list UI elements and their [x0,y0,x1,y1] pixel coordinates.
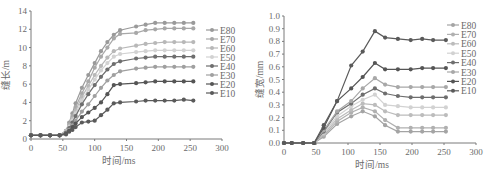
data-point-marker [373,114,377,118]
data-point-marker [182,21,186,25]
data-point-marker [99,55,103,59]
data-point-marker [361,75,365,79]
data-point-marker [349,108,353,112]
data-point-marker [409,126,413,130]
data-point-marker [172,55,176,59]
data-point-marker [93,83,97,87]
data-point-marker [163,21,167,25]
data-point-marker [38,133,42,137]
crack-width-chart: 0501001502002503000.00.10.20.30.40.50.60… [250,0,494,177]
series-line [31,57,193,136]
data-point-marker [93,94,97,98]
data-point-marker [163,40,167,44]
data-point-marker [80,86,84,90]
series-e70 [282,105,448,145]
data-point-marker [172,21,176,25]
data-point-marker [335,99,339,103]
data-point-marker [420,37,424,41]
x-tick-label: 250 [437,147,451,157]
x-tick-label: 100 [341,147,355,157]
data-point-marker [144,42,148,46]
data-point-marker [182,40,186,44]
data-point-marker [420,95,424,99]
y-tick-label: 0.2 [269,113,280,123]
data-point-marker [144,56,148,60]
data-point-marker [191,55,195,59]
series-e50 [29,48,196,137]
y-tick-label: 0.0 [269,138,281,148]
data-point-marker [163,65,167,69]
data-point-marker [322,123,326,127]
x-tick-label: 250 [183,143,197,153]
legend-marker-icon [451,51,455,55]
data-point-marker [163,99,167,103]
data-point-marker [444,95,448,99]
data-point-marker [112,36,116,40]
x-axis-title: 时间/ms [355,159,389,170]
legend-marker-icon [210,55,214,59]
y-tick-label: 8 [23,61,28,71]
legend-marker-icon [210,91,214,95]
data-point-marker [373,29,377,33]
data-point-marker [112,55,116,59]
data-point-marker [172,40,176,44]
x-tick-label: 50 [312,147,322,157]
legend-marker-icon [210,28,214,32]
data-point-marker [396,113,400,117]
data-point-marker [361,93,365,97]
data-point-marker [118,82,122,86]
data-point-marker [383,36,387,40]
data-point-marker [153,27,157,31]
legend: E80E70E60E50E40E30E20E10 [447,21,477,97]
data-point-marker [105,61,109,65]
data-point-marker [361,109,365,113]
data-point-marker [191,21,195,25]
data-point-marker [93,106,97,110]
x-axis-title: 时间/ms [102,155,136,166]
legend-marker-icon [210,73,214,77]
data-point-marker [409,67,413,71]
x-tick-label: 300 [215,143,229,153]
data-point-marker [431,126,435,130]
data-point-marker [86,120,90,124]
y-tick-label: 0 [23,134,28,144]
data-point-marker [86,110,90,114]
data-point-marker [431,105,435,109]
data-point-marker [48,133,52,137]
data-point-marker [431,85,435,89]
y-tick-label: 10 [18,43,28,53]
data-point-marker [118,69,122,73]
data-point-marker [373,93,377,97]
data-point-marker [349,114,353,118]
data-point-marker [409,105,413,109]
data-point-marker [191,48,195,52]
data-point-marker [93,66,97,70]
data-point-marker [383,83,387,87]
data-point-marker [444,85,448,89]
data-point-marker [134,81,138,85]
data-point-marker [349,99,353,103]
y-tick-label: 2 [23,116,28,126]
data-point-marker [163,79,167,83]
data-point-marker [373,61,377,65]
legend-marker-icon [210,46,214,50]
data-point-marker [290,141,294,145]
data-point-marker [134,67,138,71]
legend-marker-icon [210,82,214,86]
data-point-marker [431,66,435,70]
data-point-marker [409,130,413,134]
series-e50 [282,93,448,145]
data-point-marker [70,128,74,132]
data-point-marker [86,102,90,106]
figure: 05010015020025030002468101214时间/ms缝长/mE8… [0,0,494,177]
data-point-marker [373,76,377,80]
data-point-marker [172,48,176,52]
data-point-marker [312,141,316,145]
data-point-marker [144,66,148,70]
data-point-marker [93,119,97,123]
data-point-marker [105,40,109,44]
data-point-marker [191,99,195,103]
data-point-marker [118,28,122,32]
data-point-marker [153,41,157,45]
data-point-marker [383,103,387,107]
